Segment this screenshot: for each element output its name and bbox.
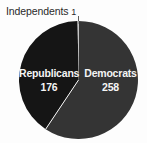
independents-callout-name: Independents [6,5,68,17]
independents-callout-value: 1 [71,7,76,17]
democrats-slice-label: Democrats 258 [81,67,140,93]
democrats-slice-value: 258 [81,81,140,93]
independents-callout-label: Independents 1 [6,5,76,18]
democrats-slice-name: Democrats [84,67,136,79]
pie-chart-figure: Independents 1 Republicans 176 Democrats… [0,0,147,143]
republicans-slice-name: Republicans [19,67,79,79]
republicans-slice-label: Republicans 176 [19,67,79,93]
republicans-slice-value: 176 [19,81,79,93]
